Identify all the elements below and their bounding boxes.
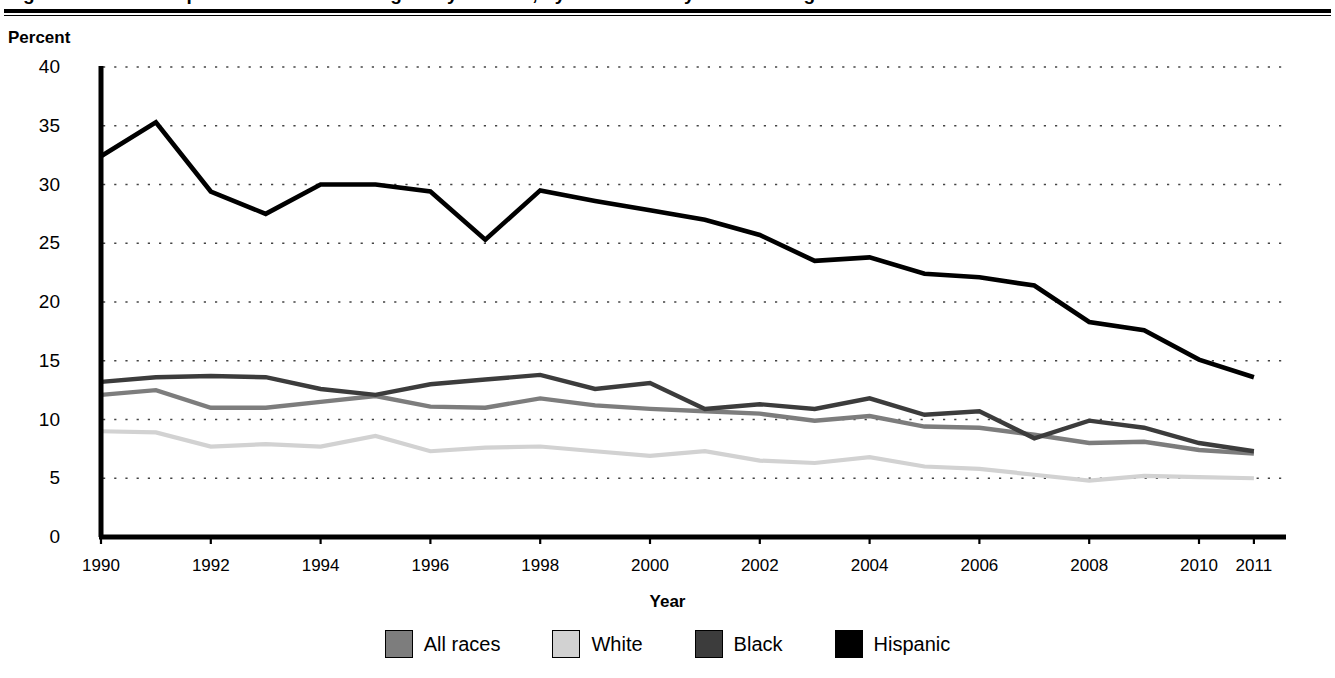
x-axis-tick-label: 2010 <box>1180 557 1218 574</box>
legend-label: All races <box>424 634 501 654</box>
line-chart-svg <box>75 60 1287 544</box>
figure-title: Figure 1. Status dropout rates of 16- th… <box>6 0 874 5</box>
legend-label: White <box>591 634 642 654</box>
x-axis-tick-label: 2004 <box>851 557 889 574</box>
x-axis-tick-label: 1992 <box>192 557 230 574</box>
figure-title-strip: Figure 1. Status dropout rates of 16- th… <box>0 0 1335 9</box>
y-axis-tick-label: 10 <box>14 410 60 429</box>
y-axis-tick-label: 20 <box>14 292 60 311</box>
series-line-white <box>101 431 1254 480</box>
title-rule-thick <box>4 9 1331 13</box>
title-rule-thin <box>4 15 1331 16</box>
legend-swatch-icon <box>385 630 413 658</box>
plot-area <box>75 60 1287 544</box>
x-axis-tick-label: 2011 <box>1236 557 1273 574</box>
legend-item-white[interactable]: White <box>552 630 642 658</box>
figure-container: Figure 1. Status dropout rates of 16- th… <box>0 0 1335 678</box>
x-axis-tick-label: 1996 <box>411 557 449 574</box>
x-axis-tick-label: 2000 <box>631 557 669 574</box>
legend-swatch-icon <box>552 630 580 658</box>
y-axis-tick-label: 40 <box>14 57 60 76</box>
y-axis-tick-label: 15 <box>14 351 60 370</box>
x-axis-tick-label: 2006 <box>960 557 998 574</box>
x-axis-tick-label: 2008 <box>1070 557 1108 574</box>
x-axis-title: Year <box>0 592 1335 612</box>
y-axis-title: Percent <box>8 28 70 48</box>
y-axis-tick-label: 35 <box>14 116 60 135</box>
x-axis-tick-label: 1998 <box>521 557 559 574</box>
legend-item-hispanic[interactable]: Hispanic <box>835 630 951 658</box>
y-axis-tick-label: 0 <box>14 527 60 546</box>
legend-item-all-races[interactable]: All races <box>385 630 501 658</box>
legend-item-black[interactable]: Black <box>695 630 783 658</box>
x-axis-tick-label: 2002 <box>741 557 779 574</box>
legend-label: Black <box>734 634 783 654</box>
chart-legend: All racesWhiteBlackHispanic <box>0 630 1335 658</box>
legend-label: Hispanic <box>874 634 951 654</box>
legend-swatch-icon <box>835 630 863 658</box>
x-axis-tick-label: 1994 <box>302 557 340 574</box>
y-axis-tick-label: 30 <box>14 175 60 194</box>
legend-swatch-icon <box>695 630 723 658</box>
series-line-hispanic <box>101 122 1254 377</box>
x-axis-tick-label: 1990 <box>82 557 120 574</box>
y-axis-tick-label: 25 <box>14 233 60 252</box>
y-axis-tick-label: 5 <box>14 468 60 487</box>
